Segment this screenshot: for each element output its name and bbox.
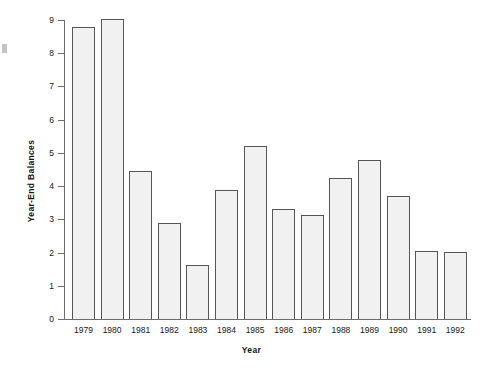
bar-1979 [72,27,95,319]
x-axis-tick-label-1983: 1983 [184,326,213,335]
x-axis-tick-label-1982: 1982 [155,326,184,335]
y-axis-tick-label: 7 [38,82,54,91]
x-axis-tick-label-1980: 1980 [98,326,127,335]
x-axis-line [64,319,471,320]
bar-1985 [244,146,267,319]
bar-1982 [158,223,181,319]
x-axis-tick-label-1985: 1985 [241,326,270,335]
x-axis-tick-label-1981: 1981 [126,326,155,335]
y-axis-tick [58,253,65,254]
y-axis-tick [58,286,65,287]
y-axis-tick [58,86,65,87]
bar-1983 [186,265,209,319]
y-axis-tick-label: 5 [38,149,54,158]
x-axis-tick-label-1986: 1986 [269,326,298,335]
bar-1986 [272,209,295,319]
bar-1989 [358,160,381,319]
y-axis-tick [58,186,65,187]
x-axis-tick-label-1989: 1989 [355,326,384,335]
bar-1990 [387,196,410,319]
x-axis-tick-label-1979: 1979 [69,326,98,335]
y-axis-tick [58,319,65,320]
x-axis-tick-label-1992: 1992 [441,326,470,335]
bar-1981 [129,171,152,319]
bar-1992 [444,252,467,319]
plot-area: 0123456789197919801981198219831984198519… [0,0,503,371]
y-axis-tick-label: 3 [38,215,54,224]
bar-1980 [101,19,124,319]
bar-1984 [215,190,238,319]
bar-chart-figure: Year-End Balances 0123456789197919801981… [0,0,503,371]
y-axis-tick [58,20,65,21]
bar-1988 [329,178,352,319]
x-axis-tick-label-1987: 1987 [298,326,327,335]
bar-1987 [301,215,324,319]
x-axis-tick-label-1984: 1984 [212,326,241,335]
y-axis-tick-label: 1 [38,282,54,291]
y-axis-tick [58,53,65,54]
y-axis-tick [58,219,65,220]
x-axis-title: Year [0,345,503,355]
y-axis-tick-label: 0 [38,315,54,324]
y-axis-tick-label: 6 [38,116,54,125]
y-axis-tick-label: 9 [38,16,54,25]
x-axis-tick-label-1988: 1988 [327,326,356,335]
y-axis-tick-label: 4 [38,182,54,191]
x-axis-tick-label-1990: 1990 [384,326,413,335]
y-axis-tick [58,120,65,121]
y-axis-tick-label: 2 [38,249,54,258]
y-axis-tick [58,153,65,154]
y-axis-tick-label: 8 [38,49,54,58]
x-axis-tick-label-1991: 1991 [412,326,441,335]
y-axis-line [64,20,65,320]
bar-1991 [415,251,438,319]
